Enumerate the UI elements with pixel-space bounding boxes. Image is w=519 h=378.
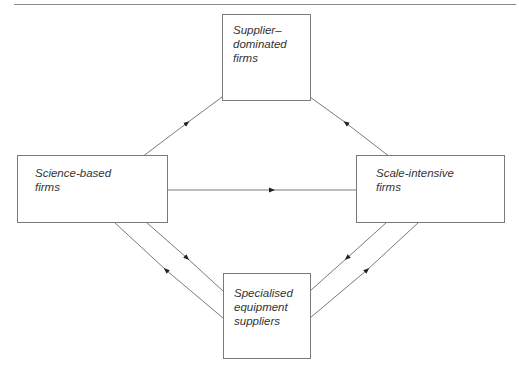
node-label: Specialised equipment suppliers: [234, 286, 293, 328]
node-science-based: Science-based firms: [17, 155, 168, 223]
edge-specialised-to-scale: [310, 222, 419, 318]
edge-scale-to-supplier: [310, 97, 390, 157]
node-supplier-dominated: Supplier– dominated firms: [222, 14, 311, 101]
edge-science-to-specialised: [146, 222, 223, 291]
node-label: Supplier– dominated firms: [233, 23, 287, 65]
node-scale-intensive: Scale-intensive firms: [356, 155, 505, 223]
edge-science-to-supplier: [142, 97, 222, 157]
edge-scale-to-specialised: [310, 222, 387, 291]
node-specialised-suppliers: Specialised equipment suppliers: [223, 273, 311, 359]
node-label: Science-based firms: [35, 166, 111, 194]
node-label: Scale-intensive firms: [376, 166, 454, 194]
edge-specialised-to-science: [114, 222, 223, 318]
